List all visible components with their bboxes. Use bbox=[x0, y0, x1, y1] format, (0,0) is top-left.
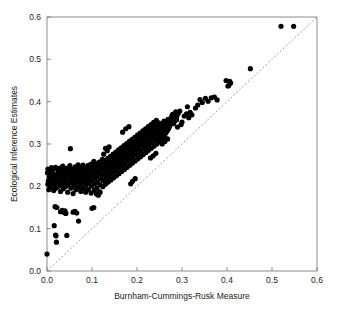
x-tick-label: 0.6 bbox=[311, 275, 323, 285]
y-tick-label: 0.5 bbox=[29, 54, 41, 64]
y-axis-title: Ecological Inference Estimates bbox=[9, 86, 19, 202]
scatter-point bbox=[74, 210, 79, 215]
scatter-point bbox=[68, 146, 73, 151]
scatter-point bbox=[98, 190, 103, 195]
axis-tick-labels: 0.00.10.20.30.40.50.60.00.10.20.30.40.50… bbox=[29, 12, 323, 285]
y-tick-label: 0.6 bbox=[29, 12, 41, 22]
y-tick-label: 0.2 bbox=[29, 181, 41, 191]
scatter-point bbox=[120, 130, 125, 135]
y-tick-label: 0.3 bbox=[29, 139, 41, 149]
x-tick-label: 0.0 bbox=[41, 275, 53, 285]
identity-reference-line bbox=[47, 17, 317, 271]
scatter-plot-figure: 0.00.10.20.30.40.50.60.00.10.20.30.40.50… bbox=[0, 0, 345, 317]
scatter-point bbox=[76, 218, 81, 223]
scatter-point bbox=[91, 205, 96, 210]
scatter-point bbox=[248, 66, 253, 71]
x-tick-label: 0.1 bbox=[86, 275, 98, 285]
scatter-point bbox=[278, 24, 283, 29]
scatter-point bbox=[179, 119, 184, 124]
scatter-point bbox=[54, 205, 59, 210]
scatter-point bbox=[133, 176, 138, 181]
scatter-point bbox=[126, 124, 131, 129]
scatter-point bbox=[215, 97, 220, 102]
y-tick-label: 0.0 bbox=[29, 266, 41, 276]
plot-canvas: 0.00.10.20.30.40.50.60.00.10.20.30.40.50… bbox=[0, 0, 345, 317]
scatter-point bbox=[174, 117, 179, 122]
x-tick-label: 0.5 bbox=[266, 275, 278, 285]
scatter-point bbox=[53, 233, 58, 238]
x-axis-title: Burnham-Cummings-Rusk Measure bbox=[114, 291, 250, 301]
scatter-point bbox=[64, 233, 69, 238]
x-tick-label: 0.2 bbox=[131, 275, 143, 285]
scatter-point bbox=[54, 240, 59, 245]
scatter-point bbox=[291, 24, 296, 29]
scatter-point bbox=[153, 151, 158, 156]
scatter-points bbox=[44, 24, 296, 257]
scatter-point bbox=[65, 190, 70, 195]
x-tick-label: 0.3 bbox=[176, 275, 188, 285]
scatter-point bbox=[228, 80, 233, 85]
scatter-point bbox=[128, 181, 133, 186]
scatter-point bbox=[177, 108, 182, 113]
scatter-point bbox=[189, 112, 194, 117]
y-tick-label: 0.1 bbox=[29, 224, 41, 234]
scatter-point bbox=[195, 102, 200, 107]
scatter-point bbox=[200, 100, 205, 105]
scatter-point bbox=[107, 144, 112, 149]
x-tick-label: 0.4 bbox=[221, 275, 233, 285]
y-tick-label: 0.4 bbox=[29, 97, 41, 107]
scatter-point bbox=[101, 152, 106, 157]
scatter-point bbox=[63, 211, 68, 216]
scatter-point bbox=[44, 251, 49, 256]
scatter-point bbox=[185, 104, 190, 109]
scatter-point bbox=[165, 136, 170, 141]
scatter-point bbox=[52, 223, 57, 228]
